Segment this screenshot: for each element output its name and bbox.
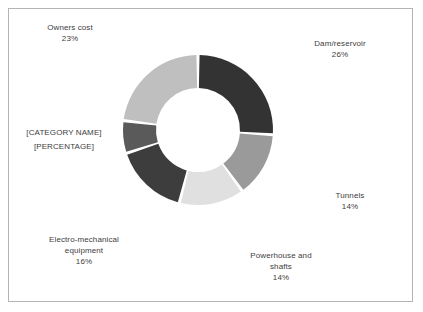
donut-slice-owners-cost[interactable] <box>124 55 197 124</box>
data-label-placeholder-percent: [PERCENTAGE] <box>8 140 120 154</box>
donut-chart-plot-area: Owners cost 23% Dam/reservoir 26% Tunnel… <box>0 0 423 312</box>
data-label-electro-name-line1: Electro-mechanical <box>14 234 154 245</box>
data-label-powerhouse-name-line1: Powerhouse and <box>222 250 340 261</box>
data-label-owners-cost-percent: 23% <box>18 33 122 44</box>
data-label-owners-cost: Owners cost 23% <box>18 22 122 44</box>
donut-slice-group <box>123 55 273 205</box>
data-label-owners-cost-name: Owners cost <box>18 22 122 33</box>
data-label-tunnels: Tunnels 14% <box>310 190 390 212</box>
data-label-placeholder-name: [CATEGORY NAME] <box>8 126 120 140</box>
data-label-electro-mechanical-equipment: Electro-mechanical equipment 16% <box>14 234 154 267</box>
data-label-tunnels-percent: 14% <box>310 201 390 212</box>
data-label-dam-reservoir: Dam/reservoir 26% <box>290 38 390 60</box>
data-label-unnamed-placeholder: [CATEGORY NAME] [PERCENTAGE] <box>8 126 120 154</box>
data-label-powerhouse-percent: 14% <box>222 272 340 283</box>
donut-slice-dam-reservoir[interactable] <box>199 55 273 133</box>
data-label-dam-reservoir-percent: 26% <box>290 49 390 60</box>
data-label-tunnels-name: Tunnels <box>310 190 390 201</box>
data-label-dam-reservoir-name: Dam/reservoir <box>290 38 390 49</box>
data-label-electro-percent: 16% <box>14 256 154 267</box>
data-label-electro-name-line2: equipment <box>14 245 154 256</box>
donut-slice-electro-mechanical-equipment[interactable] <box>127 144 187 202</box>
data-label-powerhouse-and-shafts: Powerhouse and shafts 14% <box>222 250 340 283</box>
data-label-powerhouse-name-line2: shafts <box>222 261 340 272</box>
